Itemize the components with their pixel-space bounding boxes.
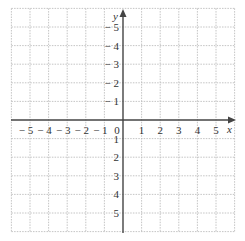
- x-tick-label: − 5: [19, 124, 34, 136]
- x-tick-label: − 1: [93, 124, 107, 136]
- y-tick-label: − 1: [105, 95, 119, 107]
- y-tick-label: − 3: [105, 58, 120, 70]
- x-tick-label: − 3: [56, 124, 71, 136]
- y-tick-label: − 5: [105, 21, 120, 33]
- y-axis-label: y: [112, 10, 118, 22]
- axes: [11, 9, 236, 233]
- x-axis-label: x: [226, 123, 232, 135]
- x-tick-label: 3: [176, 124, 182, 136]
- x-tick-label: − 4: [37, 124, 52, 136]
- x-tick-label: 2: [157, 124, 163, 136]
- y-tick-label: − 4: [105, 40, 120, 52]
- x-tick-label: − 2: [75, 124, 89, 136]
- y-tick-label: 3: [114, 170, 120, 182]
- x-tick-label: 4: [195, 124, 201, 136]
- x-tick-label: 1: [139, 124, 145, 136]
- x-tick-label: 5: [213, 124, 219, 136]
- y-tick-label: 1: [114, 133, 120, 145]
- y-tick-label: − 2: [105, 77, 119, 89]
- y-tick-label: 5: [114, 207, 120, 219]
- y-tick-label: 2: [114, 151, 120, 163]
- y-tick-label: 4: [114, 188, 120, 200]
- coordinate-plane: − 5− 4− 3− 2− 101234554321− 1− 2− 3− 4− …: [0, 0, 245, 241]
- y-axis-arrow-icon: [120, 9, 127, 17]
